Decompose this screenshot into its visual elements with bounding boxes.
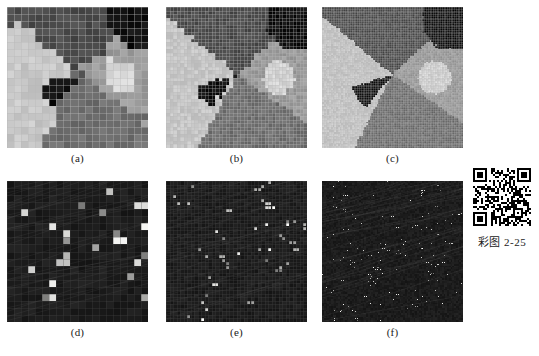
qr-code-icon[interactable] bbox=[473, 168, 531, 226]
panel-c-label: (c) bbox=[322, 152, 463, 164]
panel-b-label: (b) bbox=[166, 152, 307, 164]
panel-e-image bbox=[166, 181, 307, 322]
qr-caption: 彩图 2-25 bbox=[471, 233, 533, 249]
panel-d-image bbox=[7, 181, 148, 322]
panel-f-image bbox=[322, 181, 463, 322]
panel-f-label: (f) bbox=[322, 326, 463, 338]
panel-c-image bbox=[322, 7, 463, 148]
panel-e-label: (e) bbox=[166, 326, 307, 338]
figure-root: (a) (b) (c) (d) (e) bbox=[0, 0, 539, 356]
panel-b-image bbox=[166, 7, 307, 148]
panel-grid: (a) (b) (c) (d) (e) bbox=[0, 0, 470, 340]
panel-d-label: (d) bbox=[7, 326, 148, 338]
qr-block: 彩图 2-25 bbox=[471, 168, 533, 249]
panel-a-image bbox=[7, 7, 148, 148]
panel-a-label: (a) bbox=[7, 152, 148, 164]
